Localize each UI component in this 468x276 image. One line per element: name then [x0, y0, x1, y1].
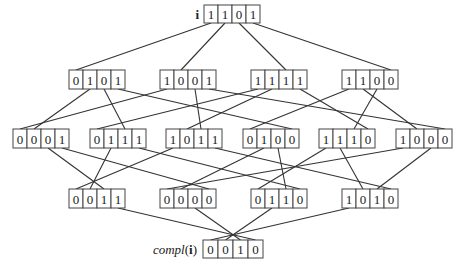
- bit-value: 1: [237, 242, 244, 257]
- bit-value: 0: [297, 192, 304, 207]
- bit-value: 1: [212, 132, 219, 147]
- compl-close-paren: ): [193, 242, 197, 257]
- edge-1100-1110: [354, 89, 377, 129]
- bit-value: 1: [122, 132, 129, 147]
- bit-value: 1: [255, 73, 262, 88]
- bit-value: 1: [337, 132, 344, 147]
- bit-value: 1: [59, 132, 66, 147]
- edge-1101-0101: [76, 23, 211, 70]
- bit-value: 1: [323, 132, 330, 147]
- bit-value: 0: [206, 192, 213, 207]
- bit-value: 0: [222, 242, 229, 257]
- edge-1110-0110: [258, 148, 326, 189]
- bit-value: 1: [206, 73, 213, 88]
- bit-value: 1: [269, 192, 276, 207]
- bit-vector-node-0110: 0110: [251, 189, 307, 208]
- bit-value: 1: [269, 73, 276, 88]
- edge-0100-0000: [181, 148, 264, 189]
- bit-value: 0: [247, 132, 254, 147]
- bit-value: 1: [170, 132, 177, 147]
- bit-value: 1: [208, 7, 215, 22]
- bit-vector-node-1001: 1001: [160, 70, 216, 89]
- bit-vector-node-0101: 0101: [69, 70, 125, 89]
- edge-0001-0000: [62, 148, 209, 189]
- edge-1011-0011: [76, 148, 173, 189]
- bit-value: 1: [108, 132, 115, 147]
- bit-value: 0: [184, 132, 191, 147]
- bit-value: 0: [178, 192, 185, 207]
- nodes-layer: 1101010110011111110000010111101101001110…: [13, 5, 452, 258]
- bit-value: 1: [115, 192, 122, 207]
- bit-value: 0: [87, 192, 94, 207]
- bit-value: 1: [283, 192, 290, 207]
- bit-value: 0: [388, 73, 395, 88]
- bit-value: 0: [192, 192, 199, 207]
- bit-value: 1: [400, 132, 407, 147]
- bit-value: 0: [289, 132, 296, 147]
- bit-vector-node-1010: 1010: [342, 189, 398, 208]
- bit-value: 1: [374, 192, 381, 207]
- bit-vector-node-0111: 0111: [90, 129, 146, 148]
- bit-value: 1: [87, 73, 94, 88]
- bit-value: 1: [164, 73, 171, 88]
- bit-vector-node-0010: 0010: [203, 240, 263, 258]
- compl-i-label: compl(i): [153, 242, 197, 257]
- edge-1110-1010: [340, 148, 363, 189]
- bit-value: 1: [198, 132, 205, 147]
- bit-value: 0: [207, 242, 214, 257]
- bit-value: 1: [360, 73, 367, 88]
- bit-value: 0: [414, 132, 421, 147]
- bit-value: 0: [236, 7, 243, 22]
- hypercube-lattice-diagram: 1101010110011111110000010111101101001110…: [0, 0, 468, 276]
- bit-vector-node-1100: 1100: [342, 70, 398, 89]
- bit-value: 0: [17, 132, 24, 147]
- bit-value: 0: [192, 73, 199, 88]
- bit-value: 1: [101, 192, 108, 207]
- bit-value: 0: [73, 73, 80, 88]
- edge-1001-0001: [20, 89, 167, 129]
- bit-value: 0: [365, 132, 372, 147]
- bit-value: 1: [283, 73, 290, 88]
- edge-0111-0011: [90, 148, 111, 189]
- bit-vector-node-0000: 0000: [160, 189, 216, 208]
- bit-value: 0: [178, 73, 185, 88]
- bit-value: 1: [115, 73, 122, 88]
- bit-value: 0: [101, 73, 108, 88]
- bit-value: 1: [261, 132, 268, 147]
- bit-vector-node-1111: 1111: [251, 70, 307, 89]
- bit-value: 0: [45, 132, 52, 147]
- bit-value: 0: [360, 192, 367, 207]
- bit-value: 0: [428, 132, 435, 147]
- bit-value: 1: [297, 73, 304, 88]
- bit-value: 0: [31, 132, 38, 147]
- bit-vector-node-1110: 1110: [319, 129, 375, 148]
- bit-vector-node-0100: 0100: [243, 129, 299, 148]
- bit-value: 0: [252, 242, 259, 257]
- bit-vector-node-0011: 0011: [69, 189, 125, 208]
- edge-0011-0010: [118, 208, 256, 240]
- edge-1111-0111: [97, 89, 258, 129]
- edge-1010-0010: [211, 208, 350, 240]
- edge-1101-1001: [181, 23, 225, 70]
- bit-vector-node-1011: 1011: [166, 129, 222, 148]
- bit-value: 0: [374, 73, 381, 88]
- edge-1101-1100: [253, 23, 391, 70]
- edge-1100-1000: [363, 89, 417, 129]
- edge-1101-1111: [239, 23, 286, 70]
- bit-value: 0: [275, 132, 282, 147]
- bit-value: 0: [164, 192, 171, 207]
- edge-1111-1011: [187, 89, 272, 129]
- bit-vector-node-1101: 1101: [204, 5, 260, 23]
- compl-function-name: compl: [153, 242, 185, 257]
- bit-value: 1: [346, 73, 353, 88]
- bit-value: 1: [351, 132, 358, 147]
- bit-value: 0: [255, 192, 262, 207]
- edge-0001-0011: [48, 148, 104, 189]
- bit-value: 0: [73, 192, 80, 207]
- bit-value: 0: [388, 192, 395, 207]
- edge-0111-0110: [139, 148, 300, 189]
- bit-vector-node-0001: 0001: [13, 129, 69, 148]
- bit-value: 1: [222, 7, 229, 22]
- vector-i-label: i: [195, 7, 199, 22]
- bit-value: 1: [250, 7, 257, 22]
